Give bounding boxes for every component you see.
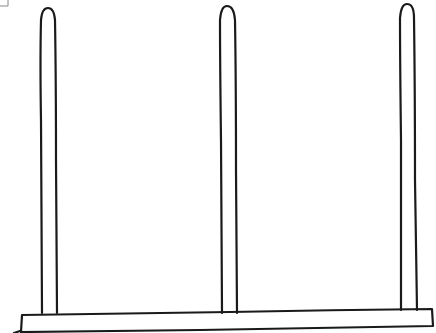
peg-middle xyxy=(220,6,237,313)
corner-fragment xyxy=(0,0,8,6)
peg-right xyxy=(400,4,417,310)
pegs-base-sketch xyxy=(0,0,436,333)
peg-left xyxy=(41,8,58,313)
base-plank xyxy=(21,309,433,332)
